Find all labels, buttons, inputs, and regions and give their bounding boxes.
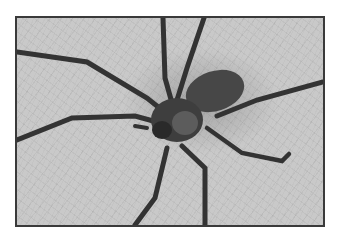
- photo-frame: [15, 16, 325, 227]
- spider-illustration: [17, 18, 323, 225]
- spider-carapace-highlight: [172, 111, 198, 135]
